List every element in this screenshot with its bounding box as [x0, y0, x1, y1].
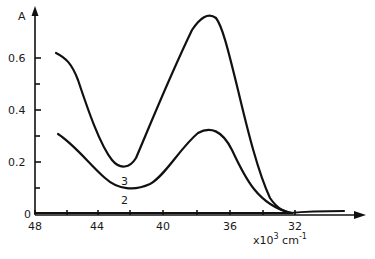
y-axis-arrow-icon — [32, 6, 39, 16]
curve-3-label: 3 — [121, 175, 128, 188]
y-axis — [32, 6, 42, 214]
y-tick-0.6: 0.6 — [8, 52, 26, 65]
curve-3 — [56, 16, 292, 213]
x-axis-arrow-icon — [354, 211, 366, 219]
x-tick-40: 40 — [156, 220, 170, 233]
curve-2-label: 2 — [121, 194, 128, 207]
x-tick-44: 44 — [90, 220, 104, 233]
y-tick-0.2: 0.2 — [8, 156, 26, 169]
curve-2 — [58, 130, 291, 213]
x-axis-unit-label: x103 cm-1 — [253, 232, 307, 247]
x-tick-48: 48 — [28, 220, 42, 233]
y-tick-0.4: 0.4 — [8, 104, 26, 117]
x-tick-36: 36 — [223, 220, 237, 233]
curve-1 — [35, 211, 344, 213]
absorption-spectrum-chart: A 0.6 0.4 0.2 0 48 44 40 36 32 x103 cm-1… — [0, 0, 375, 259]
y-axis-label: A — [18, 10, 26, 23]
